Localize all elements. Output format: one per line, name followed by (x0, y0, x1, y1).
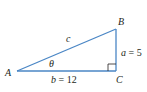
right-angle-marker (108, 64, 116, 71)
right-triangle-diagram: A B C c θ b = 12 a = 5 (0, 0, 147, 92)
side-b-label: b = 12 (51, 75, 77, 85)
hypotenuse-label: c (66, 34, 70, 44)
vertex-label-b: B (118, 17, 124, 27)
vertex-label-a: A (5, 68, 11, 78)
side-a-value: 5 (137, 47, 142, 58)
side-a-var: a (121, 47, 126, 58)
side-b-value: 12 (67, 74, 77, 85)
equals-sign: = (129, 47, 135, 58)
side-a-label: a = 5 (121, 48, 142, 58)
equals-sign: = (59, 74, 65, 85)
angle-theta-label: θ (49, 59, 54, 69)
side-b-var: b (51, 74, 56, 85)
vertex-label-c: C (116, 75, 123, 85)
